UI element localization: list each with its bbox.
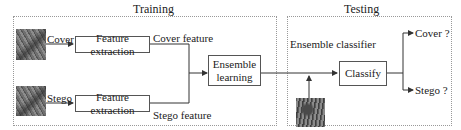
cover-image-icon (16, 29, 46, 60)
ensemble-learning-box: Ensemble learning (208, 55, 261, 86)
stego-image-icon (16, 86, 46, 116)
stego-label: Stego (47, 92, 72, 104)
output-stego-label: Stego ? (415, 84, 448, 96)
stego-feature-label: Stego feature (153, 109, 211, 121)
test-image-icon (296, 98, 325, 127)
feature-extraction-stego-box: Feature extraction (75, 95, 150, 112)
feature-extraction-cover-box: Feature extraction (75, 36, 150, 53)
classify-label: Classify (345, 67, 381, 80)
ensemble-learning-line2: learning (216, 71, 252, 84)
cover-label: Cover (47, 33, 74, 45)
output-cover-label: Cover ? (415, 27, 450, 39)
ensemble-classifier-label: Ensemble classifier (290, 38, 376, 50)
feature-extraction-cover-label: Feature extraction (76, 32, 149, 58)
ensemble-learning-line1: Ensemble (213, 58, 256, 71)
classify-box: Classify (339, 61, 387, 86)
cover-feature-label: Cover feature (153, 32, 213, 44)
feature-extraction-stego-label: Feature extraction (76, 91, 149, 117)
